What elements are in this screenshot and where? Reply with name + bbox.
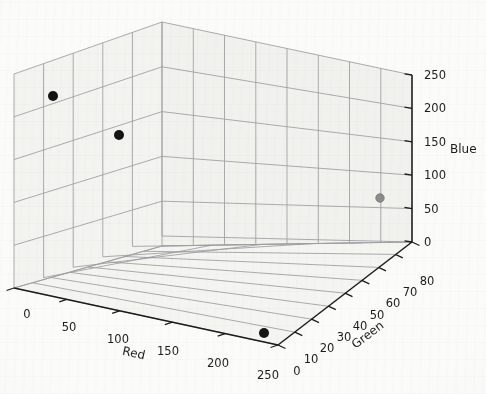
data-point[interactable] [48,91,58,101]
figure-canvas: 0 50 100 150 200 250 0 10 20 30 40 50 60… [0,0,486,394]
data-point[interactable] [259,328,269,338]
data-point[interactable] [376,194,384,202]
ztick-label: 200 [424,101,446,115]
tick-labels-blue: 0 50 100 150 200 250 [424,68,446,249]
ztick-label: 0 [424,235,431,249]
ytick-label: 0 [293,364,300,378]
ytick-label: 60 [386,296,401,310]
data-point[interactable] [114,130,124,140]
xtick-label: 250 [257,368,279,382]
ztick-label: 250 [424,68,446,82]
ztick-label: 50 [424,202,439,216]
xtick-label: 0 [23,307,30,321]
ztick-label: 100 [424,168,446,182]
ytick-label: 80 [420,274,435,288]
ytick-label: 70 [403,285,418,299]
ytick-label: 10 [304,352,319,366]
ztick-label: 150 [424,135,446,149]
ytick-label: 20 [320,341,335,355]
pane-left-red-blue [14,22,162,288]
scatter-plot-3d: 0 50 100 150 200 250 0 10 20 30 40 50 60… [0,0,486,394]
xtick-label: 50 [62,320,77,334]
xtick-label: 200 [207,356,229,370]
axis-title-red: Red [121,344,146,363]
axis-title-blue: Blue [450,142,477,156]
xtick-label: 150 [157,344,179,358]
